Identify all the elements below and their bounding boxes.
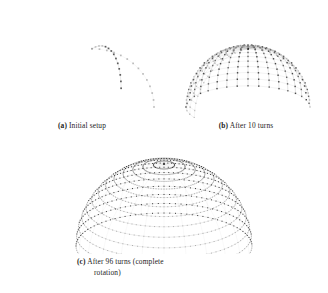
subfigure-c-tag: (c) <box>77 257 86 266</box>
subfigure-a-tag: (a) <box>58 121 67 130</box>
figure-container: (a) Initial setup (b) After 10 turns (c)… <box>0 0 328 293</box>
subfigure-b-caption: (b) After 10 turns <box>168 121 324 132</box>
subfigure-a-plot <box>4 6 160 118</box>
subfigure-b: (b) After 10 turns <box>168 6 324 132</box>
subfigure-b-plot <box>168 6 324 118</box>
subfigure-c-caption-line1: After 96 turns (complete <box>87 257 163 266</box>
subfigure-a-caption-text: Initial setup <box>69 121 106 130</box>
subfigure-c: (c) After 96 turns (complete rotation) <box>56 146 272 278</box>
subfigure-b-tag: (b) <box>219 121 228 130</box>
subfigure-a-caption: (a) Initial setup <box>4 121 160 132</box>
subfigure-c-caption-line2: rotation) <box>77 268 257 279</box>
subfigure-a: (a) Initial setup <box>4 6 160 132</box>
subfigure-c-caption: (c) After 96 turns (complete rotation) <box>71 257 257 278</box>
subfigure-c-plot <box>56 146 272 254</box>
subfigure-b-caption-text: After 10 turns <box>230 121 274 130</box>
